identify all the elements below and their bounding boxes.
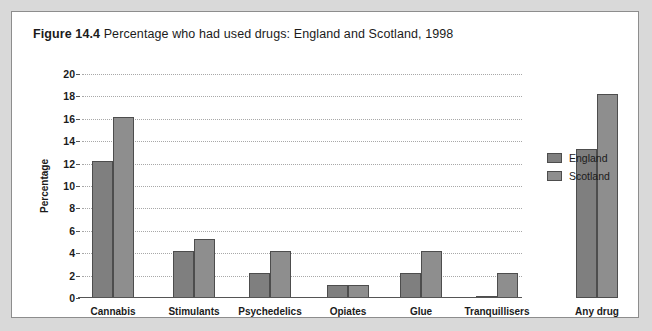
bar-england-opiates[interactable] [327, 285, 348, 298]
y-axis-tick [76, 276, 80, 277]
y-axis-tick-label: 4 [51, 247, 75, 259]
bar-england-psychedelics[interactable] [249, 273, 270, 298]
bar-scotland-glue[interactable] [421, 251, 442, 298]
y-axis-tick-label: 18 [51, 90, 75, 102]
bar-series-container: CannabisStimulantsPsychedelicsOpiatesGlu… [82, 74, 522, 298]
bar-group: Glue [400, 74, 442, 298]
y-axis-tick [76, 186, 80, 187]
figure-number: Figure 14.4 [33, 27, 100, 41]
bar-scotland-tranquillisers[interactable] [497, 273, 518, 298]
y-axis-tick-label: 16 [51, 113, 75, 125]
y-axis-tick-label: 2 [51, 270, 75, 282]
legend-label: Scotland [569, 170, 610, 182]
y-axis-tick-label: 6 [51, 225, 75, 237]
plot-area: 02468101214161820 CannabisStimulantsPsyc… [82, 74, 522, 298]
x-axis-tick-label: Any drug [575, 306, 619, 317]
figure-title: Figure 14.4 Percentage who had used drug… [33, 27, 453, 41]
y-axis-tick-label: 10 [51, 180, 75, 192]
legend-item-england[interactable]: England [547, 150, 610, 165]
y-axis-tick-label: 12 [51, 158, 75, 170]
y-axis-tick-label: 8 [51, 202, 75, 214]
x-axis-tick-label: Stimulants [168, 306, 219, 317]
y-axis-tick [76, 164, 80, 165]
legend-swatch-icon [547, 171, 562, 181]
bar-england-stimulants[interactable] [173, 251, 194, 298]
bar-group: Any drug [576, 74, 618, 298]
bar-group: Psychedelics [249, 74, 291, 298]
y-axis-tick [76, 96, 80, 97]
x-axis-tick-label: Glue [410, 306, 432, 317]
y-axis-tick [76, 298, 80, 299]
bar-group: Stimulants [173, 74, 215, 298]
y-axis-tick [76, 141, 80, 142]
y-axis-title: Percentage [38, 74, 52, 298]
y-axis-tick-label: 20 [51, 68, 75, 80]
legend-label: England [569, 152, 608, 164]
y-axis-tick [76, 74, 80, 75]
chart-legend: England Scotland [547, 150, 610, 186]
bar-scotland-any-drug[interactable] [597, 94, 618, 298]
bar-group: Cannabis [92, 74, 134, 298]
figure-panel: Figure 14.4 Percentage who had used drug… [11, 11, 639, 318]
y-axis-tick [76, 231, 80, 232]
bar-england-cannabis[interactable] [92, 161, 113, 298]
legend-item-scotland[interactable]: Scotland [547, 168, 610, 183]
bar-scotland-stimulants[interactable] [194, 239, 215, 298]
y-axis-tick [76, 119, 80, 120]
y-axis-tick-label: 14 [51, 135, 75, 147]
bar-group: Opiates [327, 74, 369, 298]
bar-scotland-opiates[interactable] [348, 285, 369, 298]
bar-scotland-cannabis[interactable] [113, 117, 134, 298]
y-axis-tick [76, 253, 80, 254]
bar-scotland-psychedelics[interactable] [270, 251, 291, 298]
bar-group: Tranquillisers [476, 74, 518, 298]
y-axis-tick [76, 208, 80, 209]
x-axis-tick-label: Opiates [330, 306, 367, 317]
y-axis-tick-label: 0 [51, 292, 75, 304]
x-axis-tick-label: Tranquillisers [464, 306, 529, 317]
legend-swatch-icon [547, 153, 562, 163]
x-axis-tick-label: Psychedelics [238, 306, 301, 317]
bar-england-glue[interactable] [400, 273, 421, 298]
x-axis-line [78, 297, 522, 298]
x-axis-tick-label: Cannabis [90, 306, 135, 317]
figure-caption: Percentage who had used drugs: England a… [104, 27, 454, 41]
